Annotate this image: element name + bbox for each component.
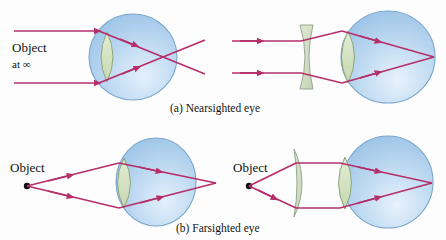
caption-farsighted: (b) Farsighted eye — [176, 222, 260, 235]
object-label-infinity-line2: at ∞ — [12, 58, 31, 70]
diagram-farsighted-corrected: Object — [233, 136, 433, 228]
diagram-farsighted-uncorrected: Object — [10, 138, 216, 226]
object-label-farsighted-left: Object — [10, 160, 45, 175]
ray-upper-arrow — [48, 175, 72, 181]
diagram-nearsighted-corrected — [232, 11, 435, 103]
eyeball-shape — [341, 11, 435, 103]
caption-nearsighted: (a) Nearsighted eye — [170, 102, 260, 115]
figure-canvas: Object at ∞ (a) Nearsighted eye — [0, 0, 446, 240]
optics-figure: Object at ∞ (a) Nearsighted eye — [0, 0, 446, 240]
diagram-nearsighted-uncorrected: Object at ∞ — [12, 14, 205, 100]
ray-lower-arrow — [258, 190, 276, 199]
object-label-farsighted-right: Object — [233, 160, 268, 175]
ray-lower-from-object — [27, 186, 119, 208]
ray-lower-arrow — [48, 191, 72, 197]
eyeball-shape — [343, 136, 433, 228]
object-label-infinity-line1: Object — [12, 40, 47, 55]
corrective-lens-diverging — [300, 25, 313, 89]
